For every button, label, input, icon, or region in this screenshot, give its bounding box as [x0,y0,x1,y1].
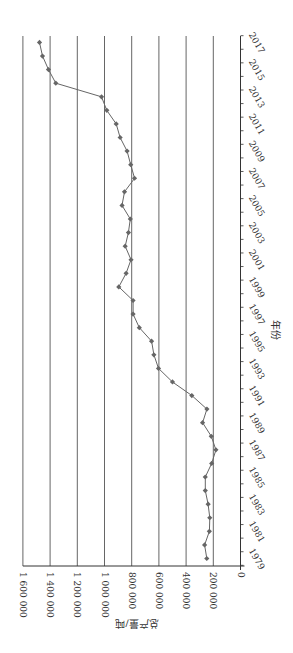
x-tick-label: 2009 [247,139,267,164]
data-point-marker [126,230,131,235]
x-tick-label: 1979 [247,547,267,572]
y-tick-label: 200 000 [208,572,218,609]
x-tick-label: 1983 [247,492,267,517]
y-tick-label: 1 200 000 [72,572,82,618]
axis-labels: 0200 000400 000600 000800 0001 000 0001 … [18,30,282,630]
x-tick-label: 2017 [247,30,267,55]
data-point-marker [124,271,129,276]
data-point-marker [151,352,156,357]
x-tick-label: 1993 [247,356,267,381]
x-tick-label: 2011 [247,112,267,137]
data-point-marker [200,420,205,425]
x-tick-label: 2003 [247,221,267,246]
data-point-marker [124,149,129,154]
y-tick-label: 1 400 000 [45,572,55,618]
x-axis-title: 年份 [270,320,282,340]
series-line [40,43,216,559]
x-tick-label: 1997 [247,302,267,327]
x-tick-label: 2005 [247,193,267,218]
data-point-marker [118,135,123,140]
x-tick-label: 1995 [247,329,267,354]
x-tick-label: 1991 [247,384,267,409]
y-tick-label: 600 000 [154,572,164,609]
x-tick-label: 2013 [247,85,267,110]
x-tick-label: 1981 [247,519,267,544]
y-tick-label: 800 000 [127,572,137,609]
data-point-marker [130,311,135,316]
data-point-marker [53,81,58,86]
data-point-marker [213,447,218,452]
y-axis-title: 总产量/吨 [115,618,158,630]
data-point-marker [37,40,42,45]
gridlines [23,36,213,566]
x-tick-label: 2007 [247,166,267,191]
data-point-marker [99,94,104,99]
data-point-marker [204,556,209,561]
data-point-marker [119,203,124,208]
y-tick-label: 400 000 [181,572,191,609]
data-point-marker [207,529,212,534]
x-tick-label: 1999 [247,275,267,300]
x-tick-label: 1989 [247,411,267,436]
x-tick-label: 1985 [247,465,267,490]
data-point-marker [123,244,128,249]
line-chart: 0200 000400 000600 000800 0001 000 0001 … [0,0,293,653]
data-point-marker [203,488,208,493]
x-tick-label: 2015 [247,58,267,83]
x-tick-label: 2001 [247,248,267,273]
y-tick-label: 0 [236,572,246,578]
data-point-marker [206,502,211,507]
chart-canvas: 0200 000400 000600 000800 0001 000 0001 … [0,0,293,653]
y-tick-label: 1 000 000 [100,572,110,618]
axes [23,36,245,570]
data-point-marker [202,542,207,547]
data-point-marker [40,53,45,58]
x-tick-label: 1987 [247,438,267,463]
data-point-marker [207,515,212,520]
data-series [37,40,219,561]
data-point-marker [128,216,133,221]
data-point-marker [128,162,133,167]
y-tick-label: 1 600 000 [18,572,28,618]
data-point-marker [203,474,208,479]
data-point-marker [128,257,133,262]
